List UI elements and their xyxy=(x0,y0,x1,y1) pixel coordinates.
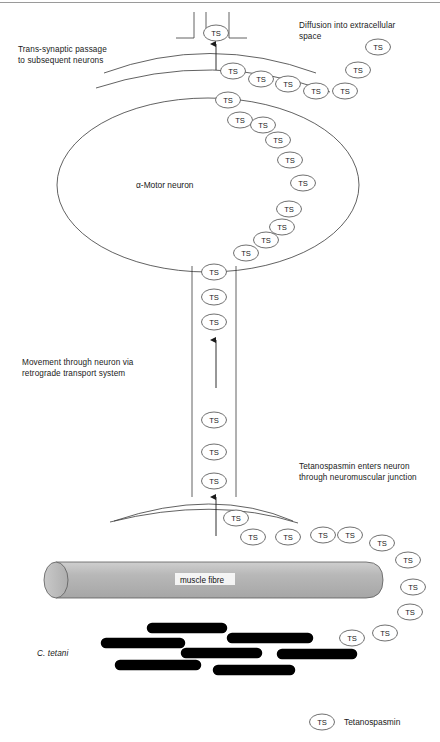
ts-particle-label: TS xyxy=(273,136,283,145)
ts-particle: TS xyxy=(373,625,398,641)
ts-particle: TS xyxy=(396,552,421,568)
ts-particle: TS xyxy=(216,92,241,108)
ts-particle-label: TS xyxy=(209,268,219,277)
tetanospasmin-diagram: α-Motor neuron muscle fibre TSTSTSTSTSTS… xyxy=(0,0,440,742)
ts-particle-label: TS xyxy=(408,583,418,592)
annotation-diffusion: Diffusion into extracellular space xyxy=(299,20,434,42)
ts-particle: TS xyxy=(202,289,227,305)
ts-particle: TS xyxy=(333,83,358,99)
ts-particle: TS xyxy=(278,152,303,168)
ts-particle-label: TS xyxy=(340,87,350,96)
annotation-movement: Movement through neuron via retrograde t… xyxy=(22,357,172,379)
ts-particle-label: TS xyxy=(318,531,328,540)
ts-particle: TS xyxy=(291,175,316,191)
ts-particle-label: TS xyxy=(209,416,219,425)
ts-particle: TS xyxy=(346,62,371,78)
ts-particle-label: TS xyxy=(298,179,308,188)
ts-particle-label: TS xyxy=(223,96,233,105)
ts-particle-label: TS xyxy=(258,121,268,130)
ts-particle-label: TS xyxy=(235,116,245,125)
legend-group: TS Tetanospasmin xyxy=(310,714,401,730)
ts-particle: TS xyxy=(276,76,301,92)
ts-particle: TS xyxy=(398,604,423,620)
ts-particle-label: TS xyxy=(261,236,271,245)
ts-particle-label: TS xyxy=(283,80,293,89)
cleft-wall-left xyxy=(176,12,194,38)
ts-particle-label: TS xyxy=(248,533,258,542)
cleft-wall-right xyxy=(229,12,247,38)
ts-particle-label: TS xyxy=(373,43,383,52)
bacteria-label: C. tetani xyxy=(37,648,68,659)
ts-particle-label: TS xyxy=(347,634,357,643)
ts-particle: TS xyxy=(202,314,227,330)
ts-particle-label: TS xyxy=(403,556,413,565)
muscle-fibre-label: muscle fibre xyxy=(180,576,225,585)
ts-particle: TS xyxy=(202,444,227,460)
ts-particle-label: TS xyxy=(209,293,219,302)
ts-particle: TS xyxy=(304,83,329,99)
ts-particle-label: TS xyxy=(311,87,321,96)
nmj-membrane-upper xyxy=(114,504,293,521)
ts-particle: TS xyxy=(241,529,266,545)
ts-particle-label: TS xyxy=(256,75,266,84)
ts-particles-group: TSTSTSTSTSTSTSTSTSTSTSTSTSTSTSTSTSTSTSTS… xyxy=(202,25,426,646)
ts-particle: TS xyxy=(234,245,259,261)
ts-particle: TS xyxy=(266,132,291,148)
ts-particle: TS xyxy=(202,264,227,280)
ts-particle-label: TS xyxy=(228,67,238,76)
legend-label: Tetanospasmin xyxy=(344,717,401,727)
ts-particle: TS xyxy=(202,473,227,489)
muscle-fibre-left-cap xyxy=(44,562,68,598)
ts-particle-label: TS xyxy=(211,29,221,38)
annotation-entry: Tetanospasmin enters neuron through neur… xyxy=(299,461,439,483)
ts-particle: TS xyxy=(251,117,276,133)
ts-particle-label: TS xyxy=(284,205,294,214)
ts-particle: TS xyxy=(311,527,336,543)
ts-particle: TS xyxy=(204,25,229,41)
ts-particle-label: TS xyxy=(209,318,219,327)
ts-particle-label: TS xyxy=(209,448,219,457)
ts-particle-label: TS xyxy=(241,249,251,258)
muscle-fibre-group: muscle fibre xyxy=(44,562,383,598)
ts-particle: TS xyxy=(340,630,365,646)
legend-ts-symbol-text: TS xyxy=(317,718,327,727)
ts-particle: TS xyxy=(370,535,395,551)
nmj-membrane-lower xyxy=(110,509,298,523)
ts-particle-label: TS xyxy=(277,223,287,232)
ts-particle: TS xyxy=(401,579,426,595)
ts-particle: TS xyxy=(277,201,302,217)
ts-particle-label: TS xyxy=(377,539,387,548)
ts-particle: TS xyxy=(270,219,295,235)
ts-particle: TS xyxy=(224,510,249,526)
ts-particle: TS xyxy=(276,529,301,545)
ts-particle-label: TS xyxy=(353,66,363,75)
ts-particle-label: TS xyxy=(380,629,390,638)
bacteria-group xyxy=(106,628,352,670)
ts-particle: TS xyxy=(202,412,227,428)
ts-particle-label: TS xyxy=(283,533,293,542)
ts-particle: TS xyxy=(249,71,274,87)
ts-particle: TS xyxy=(221,63,246,79)
nmj-group xyxy=(110,497,298,536)
ts-particle-label: TS xyxy=(209,477,219,486)
ts-particle: TS xyxy=(338,527,363,543)
ts-particle-label: TS xyxy=(231,514,241,523)
ts-particle: TS xyxy=(228,112,253,128)
ts-particle-label: TS xyxy=(345,531,355,540)
cell-body-label: α-Motor neuron xyxy=(136,180,194,190)
ts-particle-label: TS xyxy=(405,608,415,617)
ts-particle: TS xyxy=(254,232,279,248)
annotation-trans-synaptic: Trans-synaptic passage to subsequent neu… xyxy=(18,44,158,66)
ts-particle-label: TS xyxy=(285,156,295,165)
